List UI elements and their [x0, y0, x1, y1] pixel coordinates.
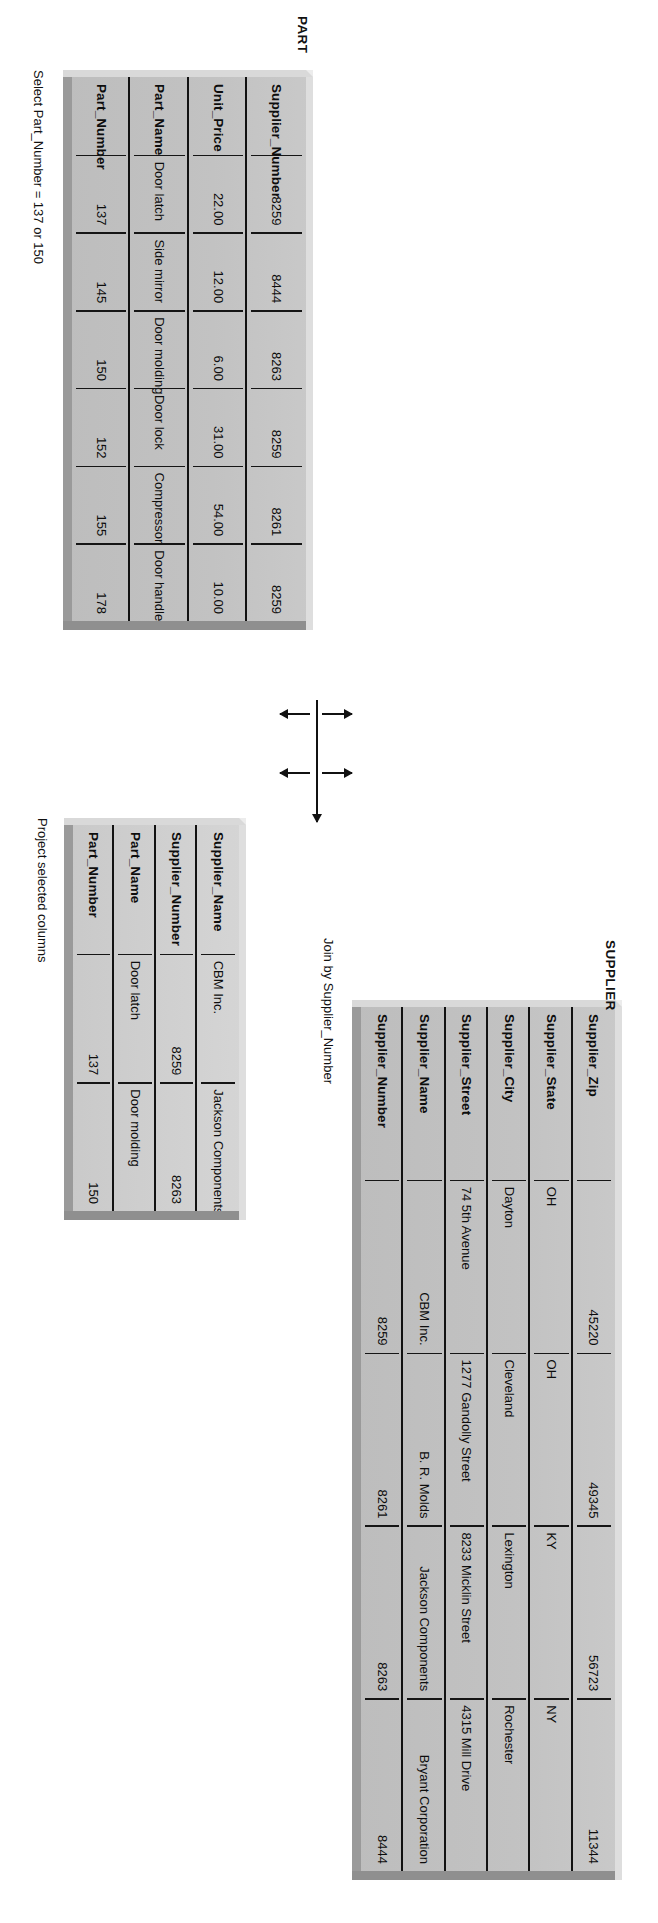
column-header: Supplier_City [488, 1007, 530, 1180]
bevel-left [64, 818, 246, 825]
table-cell: Side mirror [131, 232, 190, 310]
join-arrow-up-1 [322, 713, 352, 715]
table-row: Part_NameDoor latchDoor molding [115, 825, 157, 1211]
table-cell: 4315 Mill Drive [446, 1698, 488, 1871]
table-cell: 8261 [248, 466, 307, 544]
table-cell: 8259 [248, 388, 307, 466]
table-cell: 8233 Micklin Street [446, 1525, 488, 1698]
column-header: Supplier_Number [361, 1007, 403, 1180]
table-cell: 137 [73, 954, 115, 1083]
table-row: Supplier_Zip45220493455672311344 [573, 1007, 615, 1871]
table-row: Supplier_Number825984448263825982618259 [248, 77, 307, 621]
table-row: Supplier_NameCBM Inc.B. R. MoldsJackson … [403, 1007, 445, 1871]
table-row: Part_NameDoor latchSide mirrorDoor moldi… [131, 77, 190, 621]
table-cell: 45220 [573, 1180, 615, 1353]
table-row: Supplier_NameCBM Inc.Jackson Components [198, 825, 240, 1211]
column-header: Supplier_Number [248, 77, 307, 155]
column-header: Supplier_Name [198, 825, 240, 954]
bevel-bottom [64, 825, 73, 1220]
table-row: Supplier_CityDaytonClevelandLexingtonRoc… [488, 1007, 530, 1871]
table-cell: Door latch [131, 155, 190, 233]
table-cell: 8444 [248, 232, 307, 310]
bevel-right [352, 1871, 615, 1880]
table-cell: Jackson Components [198, 1082, 240, 1211]
table-cell: 12.00 [189, 232, 248, 310]
table-cell: 8259 [156, 954, 198, 1083]
supplier-table-grid: Supplier_Zip45220493455672311344Supplier… [361, 1007, 615, 1871]
diagram-canvas: Supplier_Number825984448263825982618259U… [0, 0, 658, 1923]
arrowhead-up [344, 768, 353, 778]
column-header: Supplier_Number [156, 825, 198, 954]
table-row: Unit_Price22.0012.006.0031.0054.0010.00 [189, 77, 248, 621]
part-table-grid: Supplier_Number825984448263825982618259U… [72, 77, 306, 621]
column-header: Part_Number [72, 77, 131, 155]
table-row: Part_Number137150 [73, 825, 115, 1211]
table-cell: 54.00 [189, 466, 248, 544]
table-cell: 145 [72, 232, 131, 310]
arrowhead-up [344, 709, 353, 719]
table-cell: 8263 [156, 1082, 198, 1211]
part-table-title: PART [295, 16, 310, 53]
join-arrow-down-1 [280, 713, 310, 715]
project-annotation: Project selected columns [35, 818, 50, 963]
table-row: Supplier_Number82598263 [156, 825, 198, 1211]
table-cell: 155 [72, 466, 131, 544]
bevel-left [352, 1000, 622, 1007]
supplier-table: Supplier_Zip45220493455672311344Supplier… [352, 1000, 622, 1880]
table-cell: 22.00 [189, 155, 248, 233]
table-cell: CBM Inc. [198, 954, 240, 1083]
arrowhead-right [312, 814, 322, 823]
table-cell: Lexington [488, 1525, 530, 1698]
table-cell: 6.00 [189, 310, 248, 388]
select-annotation: Select Part_Number = 137 or 150 [31, 70, 46, 264]
table-row: Supplier_Number8259826182638444 [361, 1007, 403, 1871]
bevel-left [63, 70, 313, 77]
table-cell: Dayton [488, 1180, 530, 1353]
table-cell: 152 [72, 388, 131, 466]
table-cell: B. R. Molds [403, 1353, 445, 1526]
join-annotation: Join by Supplier_Number [321, 938, 336, 1084]
arrowhead-down [279, 709, 288, 719]
part-table: Supplier_Number825984448263825982618259U… [63, 70, 313, 630]
bevel-right [63, 621, 306, 630]
table-cell: 150 [72, 310, 131, 388]
table-row: Part_Number137145150152155178 [72, 77, 131, 621]
result-arrow [316, 700, 318, 822]
bevel-right [64, 1211, 239, 1220]
table-cell: Jackson Components [403, 1525, 445, 1698]
column-header: Part_Name [115, 825, 157, 954]
table-cell: 8263 [361, 1525, 403, 1698]
bevel-corner [306, 70, 313, 77]
table-cell: OH [530, 1353, 572, 1526]
column-header: Part_Number [73, 825, 115, 954]
table-cell: Door handle [131, 543, 190, 621]
table-cell: 8263 [248, 310, 307, 388]
table-cell: Door molding [115, 1082, 157, 1211]
table-cell: 10.00 [189, 543, 248, 621]
join-arrow-up-2 [322, 772, 352, 774]
arrowhead-down [279, 768, 288, 778]
bevel-top [615, 1000, 622, 1880]
result-table-grid: Supplier_NameCBM Inc.Jackson ComponentsS… [73, 825, 239, 1211]
column-header: Supplier_State [530, 1007, 572, 1180]
bevel-top [306, 70, 313, 630]
supplier-table-face: Supplier_Zip45220493455672311344Supplier… [352, 1000, 622, 1880]
bevel-corner [239, 818, 246, 825]
table-cell: Compressor [131, 466, 190, 544]
table-cell: 8259 [248, 155, 307, 233]
column-header: Part_Name [131, 77, 190, 155]
column-header: Supplier_Zip [573, 1007, 615, 1180]
table-cell: Door molding [131, 310, 190, 388]
bevel-bottom [63, 77, 72, 630]
table-cell: 49345 [573, 1353, 615, 1526]
supplier-table-title: SUPPLIER [603, 940, 618, 1011]
table-cell: KY [530, 1525, 572, 1698]
result-table: Supplier_NameCBM Inc.Jackson ComponentsS… [64, 818, 246, 1220]
table-row: Supplier_StateOHOHKYNY [530, 1007, 572, 1871]
column-header: Unit_Price [189, 77, 248, 155]
part-table-face: Supplier_Number825984448263825982618259U… [63, 70, 313, 630]
table-cell: Rochester [488, 1698, 530, 1871]
column-header: Supplier_Name [403, 1007, 445, 1180]
table-row: Supplier_Street74 5th Avenue1277 Gandoll… [446, 1007, 488, 1871]
table-cell: OH [530, 1180, 572, 1353]
